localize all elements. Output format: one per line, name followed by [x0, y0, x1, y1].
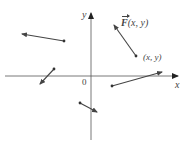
origin-label: 0	[82, 78, 87, 87]
base-point-dot	[111, 85, 114, 88]
vector-below-origin	[79, 102, 97, 112]
F-args: (x, y)	[128, 17, 149, 28]
vector-F-label: F(x, y)	[121, 18, 148, 28]
point-label: (x, y)	[143, 53, 161, 62]
base-point-dot	[63, 40, 66, 43]
base-point-dot	[135, 55, 138, 58]
F-vector-symbol: F	[121, 18, 128, 28]
vector-F	[114, 25, 137, 57]
base-point-dot	[53, 68, 56, 71]
vector-upper-left	[22, 34, 65, 42]
x-axis-label: x	[175, 80, 179, 90]
vector-field-diagram: y x 0 F(x, y) (x, y)	[0, 0, 189, 149]
base-point-dot	[79, 102, 82, 105]
diagram-canvas	[0, 0, 189, 149]
vector-right-long	[111, 72, 162, 87]
y-axis-label: y	[82, 10, 86, 20]
